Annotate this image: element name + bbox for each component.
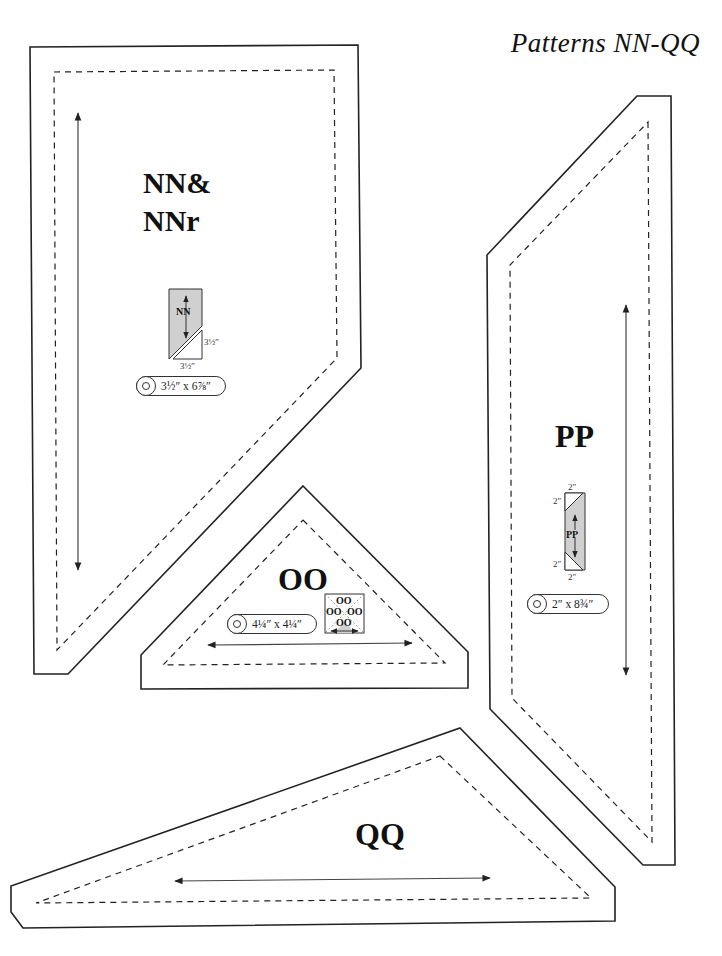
oo-strip-size: 4¼″ x 4¼″ [247,618,310,630]
pattern-pp [487,96,675,865]
pp-dim-top: 2″ [568,482,576,492]
qq-cutting-line [11,728,615,928]
nn-label-line2: NNr [143,206,200,236]
pattern-sheet [0,0,722,956]
strip-hole-icon [227,614,247,634]
page-title: Patterns NN-QQ [511,28,700,59]
pp-diagram-label: PP [566,530,578,540]
pp-seam-line [510,122,652,842]
pp-strip-size: 2″ x 8¾″ [547,598,601,610]
oo-strip-tag: 4¼″ x 4¼″ [227,614,317,634]
pp-dim-bottom: 2″ [568,572,576,582]
oo-grain-arrow [208,643,412,645]
nn-label-line1: NN& [143,168,211,198]
pp-dim-bottom-side: 2″ [553,559,561,569]
oo-diagram-label-top: OO [336,596,352,606]
qq-label: QQ [355,818,405,850]
nn-strip-tag: 3½″ x 6⅞″ [136,376,226,396]
pp-label: PP [555,420,594,452]
oo-diagram-label-left: OO [326,607,342,617]
nn-cut-diagram [169,289,202,359]
oo-label: OO [278,563,328,595]
oo-diagram-label-right: OO [347,607,363,617]
pp-cutting-line [487,96,675,865]
strip-hole-icon [527,594,547,614]
nn-diagram-label: NN [176,307,190,317]
nn-strip-size: 3½″ x 6⅞″ [156,380,219,392]
nn-dim-bottom: 3½″ [180,361,195,371]
pattern-qq [11,728,615,928]
pp-strip-tag: 2″ x 8¾″ [527,594,609,614]
strip-hole-icon [136,376,156,396]
qq-grain-arrow [175,878,490,881]
oo-diagram-label-bottom: OO [336,618,352,628]
nn-dim-side: 3½″ [204,337,219,347]
pp-dim-top-side: 2″ [553,496,561,506]
